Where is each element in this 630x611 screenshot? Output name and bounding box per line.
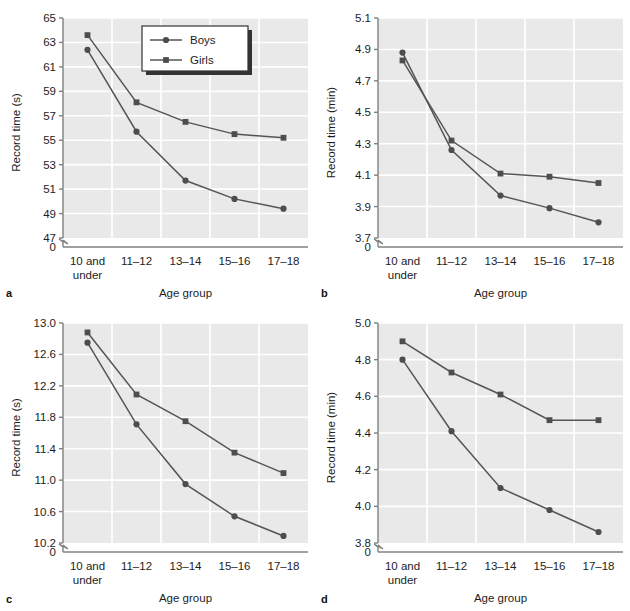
- y-tick-label: 4.9: [355, 43, 371, 55]
- y-tick-label: 57: [43, 110, 56, 122]
- y-tick-label-zero: 0: [365, 241, 371, 253]
- y-tick-label: 4.7: [355, 75, 371, 87]
- data-point-girls: [232, 450, 238, 456]
- data-point-girls: [400, 58, 406, 64]
- x-tick-label: 13–14: [485, 255, 518, 267]
- y-axis-title: Record time (s): [10, 398, 22, 477]
- data-point-girls: [596, 180, 602, 186]
- x-tick-label: under: [73, 574, 103, 586]
- data-point-boys: [497, 485, 503, 491]
- y-tick-label: 4.1: [355, 169, 371, 181]
- panel-letter-b: b: [321, 287, 328, 299]
- data-point-girls: [134, 99, 140, 105]
- y-tick-label-zero: 0: [50, 546, 56, 558]
- x-tick-label: 15–16: [219, 255, 251, 267]
- data-point-girls: [449, 370, 455, 376]
- chart-svg-c: 10.210.611.011.411.812.212.613.00Record …: [0, 305, 315, 611]
- y-tick-label: 4.4: [355, 427, 372, 439]
- chart-svg-b: 3.73.94.14.34.54.74.95.10Record time (mi…: [315, 0, 630, 305]
- x-tick-label: 13–14: [485, 560, 518, 572]
- x-tick-label: 15–16: [219, 560, 251, 572]
- data-point-boys: [399, 49, 405, 55]
- y-tick-label: 4.8: [355, 354, 371, 366]
- data-point-girls: [183, 418, 189, 424]
- data-point-girls: [498, 171, 504, 177]
- panel-letter-a: a: [6, 287, 12, 299]
- data-point-girls: [232, 131, 238, 137]
- data-point-boys: [546, 205, 552, 211]
- data-point-boys: [231, 196, 237, 202]
- legend-label-boys: Boys: [190, 34, 216, 46]
- chart-panel-b: 3.73.94.14.34.54.74.95.10Record time (mi…: [315, 0, 630, 305]
- data-point-boys: [595, 219, 601, 225]
- x-tick-label: 13–14: [170, 560, 203, 572]
- figure-four-line-charts: 474951535557596163650Record time (s)10 a…: [0, 0, 630, 611]
- y-tick-label: 63: [43, 36, 56, 48]
- x-axis-title: Age group: [474, 287, 527, 299]
- x-tick-label: 10 and: [70, 560, 105, 572]
- x-tick-label: 10 and: [70, 255, 105, 267]
- x-tick-label: 11–12: [436, 560, 467, 572]
- data-point-boys: [84, 47, 90, 53]
- y-tick-label: 49: [43, 208, 56, 220]
- x-tick-label: 17–18: [583, 560, 615, 572]
- x-tick-label: 17–18: [268, 255, 300, 267]
- y-tick-label: 53: [43, 159, 56, 171]
- data-point-boys: [133, 129, 139, 135]
- y-tick-label: 3.9: [355, 201, 371, 213]
- y-tick-label: 61: [43, 61, 56, 73]
- data-point-boys: [448, 428, 454, 434]
- x-tick-label: 13–14: [170, 255, 203, 267]
- data-point-girls: [400, 338, 406, 344]
- data-point-girls: [498, 392, 504, 398]
- plot-background: [63, 323, 308, 543]
- y-axis-title: Record time (min): [325, 87, 337, 179]
- chart-svg-a: 474951535557596163650Record time (s)10 a…: [0, 0, 315, 305]
- data-point-boys: [595, 529, 601, 535]
- data-point-boys: [182, 177, 188, 183]
- y-tick-label: 4.6: [355, 390, 371, 402]
- data-point-boys: [399, 357, 405, 363]
- data-point-boys: [280, 206, 286, 212]
- y-tick-label: 65: [43, 12, 56, 24]
- x-axis-title: Age group: [159, 287, 212, 299]
- y-tick-label: 12.6: [34, 348, 56, 360]
- y-tick-label: 51: [43, 183, 56, 195]
- chart-svg-d: 3.84.04.24.44.64.85.00Record time (min)1…: [315, 305, 630, 611]
- y-tick-label: 11.0: [34, 474, 56, 486]
- y-tick-label: 4.0: [355, 500, 371, 512]
- legend-marker-square-icon: [163, 57, 169, 63]
- y-tick-label: 5.0: [355, 317, 371, 329]
- x-tick-label: under: [388, 269, 418, 281]
- x-tick-label: 15–16: [534, 255, 566, 267]
- y-tick-label-zero: 0: [50, 241, 56, 253]
- x-tick-label: 17–18: [268, 560, 300, 572]
- data-point-girls: [281, 470, 287, 476]
- data-point-girls: [547, 174, 553, 180]
- y-tick-label: 12.2: [34, 380, 56, 392]
- y-tick-label: 11.8: [34, 411, 56, 423]
- y-tick-label: 5.1: [355, 12, 371, 24]
- x-tick-label: 10 and: [385, 560, 420, 572]
- x-tick-label: 10 and: [385, 255, 420, 267]
- y-tick-label: 10.6: [34, 506, 56, 518]
- data-point-girls: [281, 135, 287, 141]
- panel-letter-c: c: [6, 593, 12, 605]
- x-tick-label: 11–12: [121, 560, 152, 572]
- y-tick-label: 11.4: [34, 443, 56, 455]
- y-tick-label: 13.0: [34, 317, 56, 329]
- x-tick-label: 15–16: [534, 560, 566, 572]
- x-axis-title: Age group: [474, 592, 527, 604]
- legend-label-girls: Girls: [190, 54, 214, 66]
- chart-panel-c: 10.210.611.011.411.812.212.613.00Record …: [0, 305, 315, 611]
- data-point-boys: [84, 340, 90, 346]
- data-point-boys: [182, 481, 188, 487]
- y-tick-label-zero: 0: [365, 546, 371, 558]
- x-tick-label: 11–12: [436, 255, 467, 267]
- data-point-girls: [134, 392, 140, 398]
- data-point-boys: [448, 147, 454, 153]
- data-point-boys: [546, 507, 552, 513]
- chart-panel-d: 3.84.04.24.44.64.85.00Record time (min)1…: [315, 305, 630, 611]
- data-point-girls: [596, 417, 602, 423]
- data-point-girls: [547, 417, 553, 423]
